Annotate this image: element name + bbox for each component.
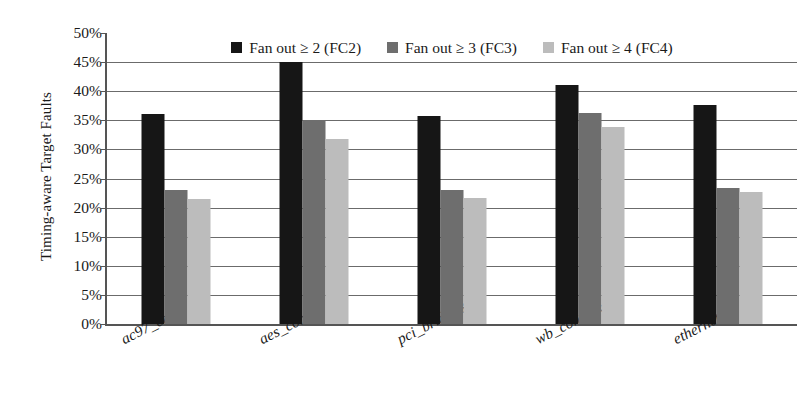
bar[interactable] [441, 190, 464, 324]
bar[interactable] [740, 192, 763, 324]
y-axis-tick-label: 0% [81, 316, 102, 332]
y-axis-tick-label: 15% [74, 229, 102, 245]
bar-group [107, 33, 245, 324]
legend-swatch-icon [231, 42, 242, 53]
bar-groups [107, 33, 797, 324]
x-axis-tick-labels: ac97_ctrlaes_corepci_bridge32wb_conmaxet… [105, 324, 795, 411]
x-axis-tick-cell: pci_bridge32 [381, 324, 519, 411]
plot-area: Fan out ≥ 2 (FC2)Fan out ≥ 3 (FC3)Fan ou… [105, 33, 797, 326]
bar-set [142, 33, 211, 324]
legend-item[interactable]: Fan out ≥ 2 (FC2) [231, 39, 361, 57]
legend-item[interactable]: Fan out ≥ 3 (FC3) [387, 39, 517, 57]
bar-set [556, 33, 625, 324]
y-axis-tickmark [100, 237, 107, 238]
bar[interactable] [326, 139, 349, 324]
x-axis-tick-cell: wb_conmax [519, 324, 657, 411]
y-axis-tick-label: 35% [74, 113, 102, 129]
bar-group [383, 33, 521, 324]
bar[interactable] [694, 105, 717, 324]
bar-set [280, 33, 349, 324]
x-axis-tick-cell: ac97_ctrl [105, 324, 243, 411]
legend-swatch-icon [543, 42, 554, 53]
bar[interactable] [556, 85, 579, 324]
bar[interactable] [418, 116, 441, 324]
y-axis-tickmark [100, 266, 107, 267]
bar[interactable] [303, 120, 326, 324]
legend-label: Fan out ≥ 4 (FC4) [561, 39, 673, 57]
legend-label: Fan out ≥ 3 (FC3) [405, 39, 517, 57]
y-axis-tick-label: 40% [74, 83, 102, 99]
bar[interactable] [188, 199, 211, 324]
bar[interactable] [165, 190, 188, 324]
bar[interactable] [602, 127, 625, 324]
y-axis-tick-label: 25% [74, 171, 102, 187]
y-axis-tick-label: 10% [74, 258, 102, 274]
y-axis-tickmark [100, 208, 107, 209]
x-axis-tick-cell: aes_core [243, 324, 381, 411]
y-axis-tick-labels: 50%45%40%35%30%25%20%15%10%5%0% [46, 0, 102, 411]
legend-swatch-icon [387, 42, 398, 53]
y-axis-tickmark [100, 62, 107, 63]
bar-group [245, 33, 383, 324]
legend-label: Fan out ≥ 2 (FC2) [249, 39, 361, 57]
bar[interactable] [280, 61, 303, 324]
bar[interactable] [717, 188, 740, 324]
y-axis-tickmark [100, 295, 107, 296]
bar[interactable] [579, 113, 602, 324]
y-axis-tick-label: 50% [74, 25, 102, 41]
y-axis-tick-label: 45% [74, 54, 102, 70]
bar-set [694, 33, 763, 324]
bar[interactable] [142, 114, 165, 324]
y-axis-tickmark [100, 91, 107, 92]
bar-set [418, 33, 487, 324]
bar-group [521, 33, 659, 324]
y-axis-tickmark [100, 179, 107, 180]
y-axis-tick-label: 20% [74, 200, 102, 216]
legend-item[interactable]: Fan out ≥ 4 (FC4) [543, 39, 673, 57]
y-axis-tickmark [100, 33, 107, 34]
chart-root: Timing-aware Target Faults 50%45%40%35%3… [0, 0, 807, 411]
y-axis-tickmark [100, 120, 107, 121]
y-axis-tick-label: 5% [81, 287, 102, 303]
chart-legend: Fan out ≥ 2 (FC2)Fan out ≥ 3 (FC3)Fan ou… [107, 33, 797, 62]
y-axis-tickmark [100, 149, 107, 150]
y-axis-tick-label: 30% [74, 142, 102, 158]
x-axis-tick-cell: ethernet [657, 324, 795, 411]
bar[interactable] [464, 198, 487, 324]
bar-group [659, 33, 797, 324]
